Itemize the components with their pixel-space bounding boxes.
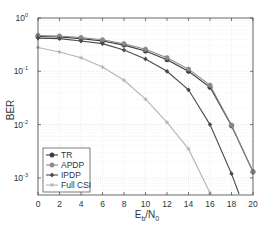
legend: TRAPDPIPDPFull CSI xyxy=(43,148,91,192)
svg-text:TR: TR xyxy=(61,150,72,160)
x-tick-label: 2 xyxy=(57,199,62,209)
svg-text:APDP: APDP xyxy=(61,160,84,170)
y-tick-label: 100 xyxy=(15,12,28,23)
y-tick-label: 10-1 xyxy=(14,65,28,76)
ber-chart: 02468101214161820 10010-110-210-3 BER Eb… xyxy=(0,0,269,225)
x-tick-label: 6 xyxy=(100,199,105,209)
svg-text:IPDP: IPDP xyxy=(61,170,81,180)
x-tick-label: 14 xyxy=(184,199,194,209)
x-axis-label: Eb/N0 xyxy=(135,209,160,222)
x-tick-label: 10 xyxy=(141,199,151,209)
x-tick-label: 0 xyxy=(36,199,41,209)
x-tick-label: 4 xyxy=(79,199,84,209)
x-tick-label: 20 xyxy=(248,199,258,209)
x-tick-label: 16 xyxy=(205,199,215,209)
y-tick-label: 10-3 xyxy=(14,172,28,183)
x-tick-label: 8 xyxy=(122,199,127,209)
y-axis-label: BER xyxy=(5,100,16,121)
x-tick-label: 18 xyxy=(227,199,237,209)
x-tick-label: 12 xyxy=(162,199,172,209)
svg-text:Full CSI: Full CSI xyxy=(61,180,91,190)
